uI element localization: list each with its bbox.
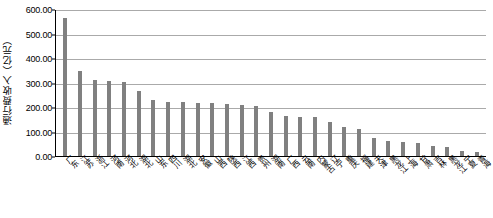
- x-label-slot: 上海: [396, 158, 411, 216]
- bar-slot: [102, 10, 117, 156]
- bar: [328, 122, 332, 156]
- bar: [166, 102, 170, 156]
- x-label-slot: 广西: [278, 158, 293, 216]
- bar: [151, 100, 155, 156]
- bar-slot: [322, 10, 337, 156]
- bar-slot: [234, 10, 249, 156]
- bar: [313, 117, 317, 156]
- x-label-slot: 湖南: [263, 158, 278, 216]
- bar: [269, 112, 273, 156]
- y-tick-label: 500.00: [26, 30, 52, 40]
- y-tick-label: 200.00: [26, 103, 52, 113]
- bar: [93, 80, 97, 156]
- x-label-slot: 云南: [293, 158, 308, 216]
- bar-slot: [352, 10, 367, 156]
- x-label-slot: 浙江: [86, 158, 101, 216]
- bar-slot: [440, 10, 455, 156]
- bar-slot: [425, 10, 440, 156]
- x-label-slot: 广东: [57, 158, 72, 216]
- bar: [372, 138, 376, 156]
- bar: [254, 106, 258, 156]
- x-label-slot: 贵州: [248, 158, 263, 216]
- bar: [445, 147, 449, 156]
- x-label-slot: 福建: [351, 158, 366, 216]
- bar-slot: [455, 10, 470, 156]
- bar: [357, 129, 361, 156]
- bar: [181, 102, 185, 156]
- x-label-slot: 黑龙江: [440, 158, 455, 216]
- bar: [63, 18, 67, 156]
- x-label-slot: 湖北: [131, 158, 146, 216]
- x-label-slot: 青海: [469, 158, 484, 216]
- y-tick-label: 600.00: [26, 5, 52, 15]
- bar-slot: [146, 10, 161, 156]
- bar-slot: [411, 10, 426, 156]
- y-tick-label: 300.00: [26, 79, 52, 89]
- bar-slot: [205, 10, 220, 156]
- x-tick-label: 青海: [474, 153, 492, 171]
- x-label-slot: 江苏: [72, 158, 87, 216]
- bar-slot: [190, 10, 205, 156]
- x-label-slot: 吉林: [425, 158, 440, 216]
- bar: [78, 71, 82, 156]
- bar-slot: [87, 10, 102, 156]
- y-axis-tick-labels: 600.00500.00400.00300.00200.00100.000.00: [13, 10, 55, 157]
- bar: [196, 103, 200, 156]
- x-label-slot: 黑龙江: [381, 158, 396, 216]
- bar: [122, 82, 126, 156]
- bar-slot: [249, 10, 264, 156]
- x-label-slot: 山东: [145, 158, 160, 216]
- x-label-slot: 甘肃: [410, 158, 425, 216]
- x-label-slot: 宁夏: [454, 158, 469, 216]
- bar-slot: [293, 10, 308, 156]
- x-label-slot: 陕西: [219, 158, 234, 216]
- x-label-slot: 湖北: [175, 158, 190, 216]
- bar: [342, 127, 346, 156]
- bar: [416, 143, 420, 156]
- x-label-slot: 辽宁: [322, 158, 337, 216]
- y-tick-label: 100.00: [26, 128, 52, 138]
- x-label-slot: 河南: [101, 158, 116, 216]
- bar-slot: [337, 10, 352, 156]
- bar: [298, 117, 302, 156]
- bar-slot: [58, 10, 73, 156]
- x-axis-tick-labels: 广东江苏浙江河南河北湖北山东四川湖北安徽山西陕西江西贵州湖南广西云南内蒙古辽宁重…: [55, 158, 486, 216]
- bar: [460, 151, 464, 156]
- bar: [240, 105, 244, 156]
- bar-slot: [396, 10, 411, 156]
- bar-slot: [264, 10, 279, 156]
- bar-slot: [469, 10, 484, 156]
- x-label-slot: 山西: [204, 158, 219, 216]
- bar-slot: [381, 10, 396, 156]
- bar-slot: [161, 10, 176, 156]
- bar-slot: [308, 10, 323, 156]
- y-tick-label: 400.00: [26, 54, 52, 64]
- x-label-slot: 安徽: [189, 158, 204, 216]
- bar-series: [56, 10, 486, 156]
- x-label-slot: 内蒙古: [307, 158, 322, 216]
- x-label-slot: 四川: [160, 158, 175, 216]
- bar: [225, 104, 229, 156]
- bar-slot: [366, 10, 381, 156]
- x-label-slot: 天津: [366, 158, 381, 216]
- bar-slot: [220, 10, 235, 156]
- bar: [386, 141, 390, 156]
- bar-slot: [73, 10, 88, 156]
- x-label-slot: 河北: [116, 158, 131, 216]
- bar-slot: [131, 10, 146, 156]
- bar: [431, 146, 435, 156]
- bar-slot: [117, 10, 132, 156]
- bar-slot: [278, 10, 293, 156]
- bar: [284, 116, 288, 156]
- x-label-slot: 江西: [234, 158, 249, 216]
- bar-slot: [176, 10, 191, 156]
- bar: [401, 142, 405, 156]
- x-label-slot: 重庆: [337, 158, 352, 216]
- y-tick-label: 0.00: [35, 152, 52, 162]
- plot-area: [55, 10, 486, 157]
- bar: [137, 91, 141, 156]
- bar: [107, 81, 111, 156]
- bar: [210, 103, 214, 156]
